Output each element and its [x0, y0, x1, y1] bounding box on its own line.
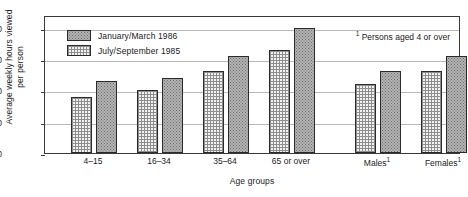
bar-january-march-1986 — [380, 71, 401, 153]
bar-january-march-1986 — [96, 81, 117, 153]
bar-july-september-1985 — [269, 50, 290, 154]
x-tick-label: 65 or over — [272, 156, 310, 166]
x-axis-title: Age groups — [44, 176, 460, 186]
y-tick-label: 30 — [0, 55, 2, 65]
legend-item-july-september-1985: July/September 1985 — [67, 44, 180, 57]
y-tick-label: 20 — [0, 86, 2, 96]
legend-label-july-september-1985: July/September 1985 — [98, 46, 180, 56]
y-axis-title-container: Average weekly hours viewed per person — [0, 0, 30, 160]
bar-january-march-1986 — [162, 78, 183, 153]
y-tick-label: 0 — [0, 149, 2, 159]
x-axis-ticks: 4–1516–3435–6465 or overMales1Females1 — [44, 156, 460, 172]
bar-january-march-1986 — [294, 28, 315, 153]
legend-swatch-stipple-icon — [67, 30, 91, 41]
legend-label-january-march-1986: January/March 1986 — [98, 31, 177, 41]
bar-july-september-1985 — [137, 90, 158, 153]
bar-july-september-1985 — [203, 71, 224, 153]
bar-july-september-1985 — [355, 84, 376, 153]
x-tick-label: 16–34 — [147, 156, 171, 166]
x-tick-label: 35–64 — [213, 156, 237, 166]
bar-july-september-1985 — [421, 71, 442, 153]
plot-area: January/March 1986 July/September 1985 1… — [44, 16, 460, 154]
bar-january-march-1986 — [446, 56, 467, 153]
legend-item-january-march-1986: January/March 1986 — [67, 29, 180, 42]
footnote-text: Persons aged 4 or over — [359, 32, 450, 42]
y-tick-label: 10 — [0, 118, 2, 128]
bar-group — [203, 17, 249, 153]
bar-july-september-1985 — [71, 97, 92, 153]
legend-swatch-hatch-icon — [67, 45, 91, 56]
legend: January/March 1986 July/September 1985 — [67, 29, 180, 59]
x-tick-label: Females1 — [425, 156, 461, 168]
bar-group — [269, 17, 315, 153]
x-tick-label: Males1 — [364, 156, 390, 168]
bar-chart: Average weekly hours viewed per person 0… — [0, 0, 468, 197]
y-tick-label: 40 — [0, 24, 2, 34]
footnote: 1 Persons aged 4 or over — [356, 30, 450, 42]
bar-january-march-1986 — [228, 56, 249, 153]
x-tick-label: 4–15 — [84, 156, 103, 166]
y-axis-title: Average weekly hours viewed per person — [4, 5, 26, 129]
